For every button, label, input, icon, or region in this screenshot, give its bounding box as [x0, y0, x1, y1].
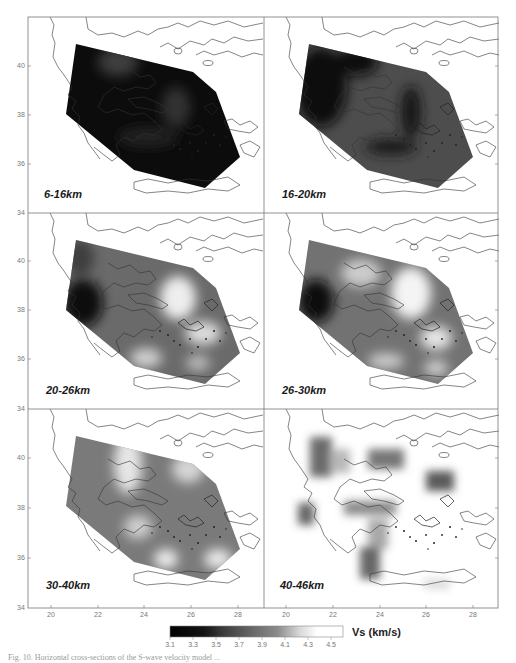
- y-tick: 38: [17, 306, 25, 313]
- y-tick: 38: [17, 504, 25, 511]
- colorbar-gradient: [170, 626, 343, 637]
- depth-label: 40-46km: [279, 579, 324, 591]
- colorbar: 3.1 3.3 3.5 3.7 3.9 4.1 4.3 4.5 Vs (km/s…: [165, 626, 401, 648]
- colorbar-tick: 4.3: [303, 641, 313, 648]
- x-tick-labels: 20 22 24 26 28 20 22 24 26 28: [47, 611, 477, 618]
- colorbar-tick: 3.7: [234, 641, 244, 648]
- y-tick: 34: [17, 209, 25, 216]
- colorbar-tick: 3.5: [211, 641, 221, 648]
- panel-30-40km: 30-40km: [28, 409, 264, 608]
- x-tick: 20: [47, 611, 55, 618]
- x-tick: 26: [187, 611, 195, 618]
- x-tick: 22: [329, 611, 337, 618]
- panel-40-46km: 40-46km: [264, 409, 499, 608]
- colorbar-title: Vs (km/s): [352, 626, 401, 638]
- x-tick: 20: [282, 611, 290, 618]
- y-tick: 40: [17, 454, 25, 461]
- y-tick: 38: [17, 111, 25, 118]
- panel-20-26km: 20-26km: [28, 213, 264, 409]
- x-tick: 22: [94, 611, 102, 618]
- depth-label: 20-26km: [45, 384, 90, 396]
- panel-16-20km: 16-20km: [261, 17, 499, 213]
- colorbar-tick: 3.9: [257, 641, 267, 648]
- depth-label: 26-30km: [281, 384, 326, 396]
- x-tick: 24: [140, 611, 148, 618]
- panel-6-16km: 6-16km: [28, 17, 264, 213]
- y-tick: 34: [17, 405, 25, 412]
- y-tick-labels: 40 38 36 34 40 38 36 34 40 38 36 34: [17, 62, 25, 611]
- y-tick: 34: [17, 604, 25, 611]
- depth-label: 6-16km: [44, 188, 82, 200]
- colorbar-tick: 3.1: [165, 641, 175, 648]
- y-tick: 40: [17, 257, 25, 264]
- x-tick: 28: [234, 611, 242, 618]
- x-tick: 26: [422, 611, 430, 618]
- panel-26-30km: 26-30km: [261, 213, 499, 409]
- colorbar-tick: 4.5: [326, 641, 336, 648]
- y-tick: 36: [17, 355, 25, 362]
- y-tick: 36: [17, 160, 25, 167]
- x-tick: 28: [469, 611, 477, 618]
- x-tick: 24: [376, 611, 384, 618]
- figure-caption: Fig. 10. Horizontal cross-sections of th…: [8, 653, 220, 662]
- depth-label: 30-40km: [46, 579, 90, 591]
- figure-canvas: 6-16km 16-20km: [0, 0, 516, 663]
- y-tick: 40: [17, 62, 25, 69]
- depth-label: 16-20km: [282, 188, 326, 200]
- colorbar-tick: 3.3: [188, 641, 198, 648]
- y-tick: 36: [17, 554, 25, 561]
- colorbar-tick: 4.1: [280, 641, 290, 648]
